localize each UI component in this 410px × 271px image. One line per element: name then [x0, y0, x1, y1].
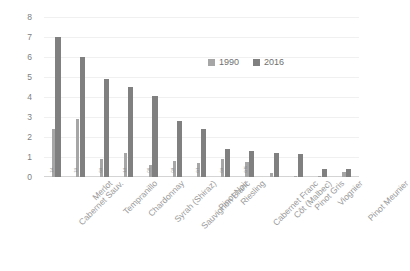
bar-group: 2.9 — [76, 17, 85, 177]
y-axis: 012345678 — [0, 17, 40, 177]
bar-group — [318, 17, 327, 177]
y-axis-tick-label: 0 — [27, 173, 32, 182]
legend-label: 1990 — [219, 58, 239, 67]
bar-value-label: 0.8 — [172, 168, 176, 173]
bar-group — [294, 17, 303, 177]
bar-value-label: 0.7 — [196, 168, 200, 173]
y-axis-tick-label: 1 — [27, 153, 32, 162]
bar-1990 — [318, 176, 321, 177]
bar-1990: 0.8 — [173, 161, 176, 177]
bar-value-label: 0.6 — [148, 168, 152, 173]
bar-group: 0.9 — [221, 17, 230, 177]
bar-group: 0.9 — [100, 17, 109, 177]
bar-1990: 0.7 — [197, 163, 200, 177]
bar-group: 0.75 — [245, 17, 254, 177]
x-axis-category-label: Pinot Meunier — [366, 179, 410, 223]
bar-value-label: 0.9 — [99, 168, 103, 173]
bar-value-label: 2.9 — [75, 168, 79, 173]
bar-value-label: 2.4 — [51, 168, 55, 173]
bar-1990 — [270, 173, 273, 177]
bar-value-label: 1.2 — [124, 168, 128, 173]
bar-2016 — [104, 79, 109, 177]
bar-2016 — [274, 153, 279, 177]
bar-2016 — [346, 169, 351, 177]
bar-group — [270, 17, 279, 177]
bar-2016 — [55, 37, 60, 177]
bar-1990: 0.9 — [100, 159, 103, 177]
x-axis-labels: Cabernet Sauv.MerlotTempranilloChardonna… — [44, 179, 359, 271]
bar-2016 — [177, 121, 182, 177]
bar-group: 0.8 — [173, 17, 182, 177]
y-axis-tick-label: 2 — [27, 133, 32, 142]
bar-value-label: 0.75 — [245, 166, 249, 173]
bar-1990: 0.9 — [221, 159, 224, 177]
legend-entry-2016: 2016 — [253, 58, 284, 67]
bar-2016 — [322, 169, 327, 177]
y-axis-tick-label: 8 — [27, 13, 32, 22]
bar-2016 — [298, 154, 303, 177]
bar-value-label: 0.9 — [221, 168, 225, 173]
y-axis-tick-label: 3 — [27, 113, 32, 122]
legend-swatch-icon — [253, 59, 260, 66]
bar-2016 — [201, 129, 206, 177]
y-axis-tick-label: 7 — [27, 33, 32, 42]
bar-2016 — [128, 87, 133, 177]
bar-group: 2.4 — [52, 17, 61, 177]
legend-entry-1990: 1990 — [208, 58, 239, 67]
legend-swatch-icon — [208, 59, 215, 66]
bar-2016 — [152, 96, 157, 177]
bar-group: 0.6 — [149, 17, 158, 177]
y-axis-tick-label: 5 — [27, 73, 32, 82]
bar-2016 — [249, 151, 254, 177]
bar-group: 0.7 — [197, 17, 206, 177]
bar-1990: 2.9 — [76, 119, 79, 177]
bar-2016 — [80, 57, 85, 177]
chart-legend: 19902016 — [208, 58, 284, 67]
y-axis-tick-label: 6 — [27, 53, 32, 62]
bar-1990 — [342, 172, 345, 177]
bar-1990: 1.2 — [124, 153, 127, 177]
bar-1990 — [294, 176, 297, 177]
bar-group — [342, 17, 351, 177]
legend-label: 2016 — [264, 58, 284, 67]
bar-1990: 0.6 — [149, 165, 152, 177]
bar-1990: 0.75 — [245, 162, 248, 177]
y-axis-tick-label: 4 — [27, 93, 32, 102]
bar-group: 1.2 — [124, 17, 133, 177]
bars-layer: 2.42.90.91.20.60.80.70.90.75 — [44, 17, 359, 177]
bar-2016 — [225, 149, 230, 177]
bar-1990: 2.4 — [52, 129, 55, 177]
